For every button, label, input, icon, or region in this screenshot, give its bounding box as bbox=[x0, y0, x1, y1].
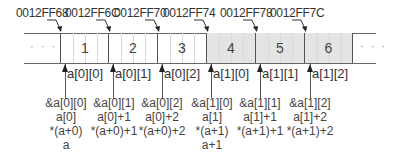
memory-cell-3: 4 bbox=[206, 33, 255, 63]
expression: a+1 bbox=[182, 138, 242, 152]
ellipsis-left: · · · bbox=[30, 40, 57, 52]
expression-group-5: &a[1][2] a[1]+2 *(a+1)+2 bbox=[280, 96, 340, 138]
cell-value: 4 bbox=[207, 40, 255, 56]
strip-bottom-border bbox=[24, 63, 376, 64]
memory-cell-0: 1 bbox=[60, 33, 109, 63]
cell-value: 3 bbox=[158, 40, 206, 56]
cell-value: 2 bbox=[109, 40, 157, 56]
expression: a bbox=[36, 138, 96, 152]
expression: &a[1][2] bbox=[280, 96, 340, 110]
memory-cell-1: 2 bbox=[108, 33, 157, 63]
memory-cell-2: 3 bbox=[157, 33, 206, 63]
element-label-3: a[1][0] bbox=[213, 66, 249, 81]
memory-cell-5: 6 bbox=[304, 33, 353, 63]
element-label-2: a[0][2] bbox=[164, 66, 200, 81]
element-label-4: a[1][1] bbox=[262, 66, 298, 81]
cell-value: 1 bbox=[61, 40, 109, 56]
element-label-1: a[0][1] bbox=[115, 66, 151, 81]
memory-cell-4: 5 bbox=[255, 33, 304, 63]
expression: a[1]+2 bbox=[280, 110, 340, 124]
cell-value: 5 bbox=[256, 40, 304, 56]
ellipsis-right: · · · bbox=[360, 40, 387, 52]
element-label-0: a[0][0] bbox=[67, 66, 103, 81]
cell-value: 6 bbox=[305, 40, 352, 56]
expression: *(a+1)+2 bbox=[280, 124, 340, 138]
element-label-5: a[1][2] bbox=[312, 66, 348, 81]
